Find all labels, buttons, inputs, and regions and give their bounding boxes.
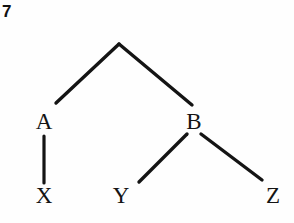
tree-node-Z: Z <box>261 184 285 207</box>
edge-root-to-A <box>56 44 119 103</box>
tree-node-Y: Y <box>109 184 133 207</box>
figure-container: 7 A B X Y Z <box>0 0 294 223</box>
tree-node-A: A <box>32 110 56 133</box>
tree-edges <box>44 44 262 183</box>
edge-root-to-B <box>119 44 192 105</box>
tree-node-X: X <box>32 184 56 207</box>
edge-B-to-Y <box>139 134 187 182</box>
edge-B-to-Z <box>201 134 262 180</box>
tree-node-B: B <box>182 110 206 133</box>
